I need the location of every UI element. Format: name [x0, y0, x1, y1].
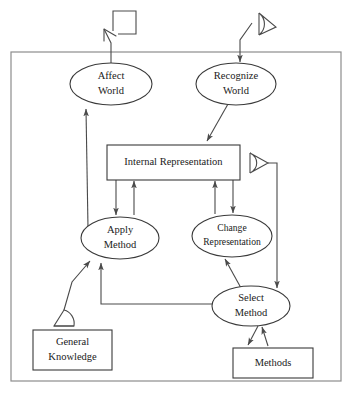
node-apply-method-line-2: Method — [104, 239, 137, 250]
node-methods-label: Methods — [255, 357, 292, 368]
node-general-knowledge-line-1: General — [56, 336, 89, 347]
node-general-knowledge[interactable]: General Knowledge — [33, 330, 112, 370]
node-methods[interactable]: Methods — [233, 348, 313, 378]
node-select-method[interactable]: Select Method — [212, 286, 290, 326]
node-select-method-line-1: Select — [238, 292, 264, 303]
node-change-representation-line-1: Change — [217, 222, 246, 233]
node-recognize-world-line-1: Recognize — [214, 70, 259, 81]
node-affect-world-line-2: World — [98, 85, 125, 96]
architecture-diagram: Affect World Recognize World Internal Re… — [0, 0, 353, 400]
edge-recognize-world-to-internal-representation — [207, 104, 228, 141]
node-apply-method[interactable]: Apply Method — [81, 217, 159, 259]
edge-select-method-to-change-representation — [225, 259, 241, 288]
node-change-representation[interactable]: Change Representation — [192, 215, 272, 257]
edge-select-method-to-methods — [248, 326, 258, 345]
edge-methods-to-select-method — [262, 327, 268, 346]
edge-world-sensor-to-recognize-world — [240, 23, 252, 62]
node-apply-method-line-1: Apply — [107, 224, 134, 235]
node-affect-world[interactable]: Affect World — [70, 63, 152, 105]
edge-representation-sensor-to-select-method — [268, 163, 277, 288]
edge-apply-method-to-affect-world — [86, 109, 88, 228]
node-internal-representation-label: Internal Representation — [124, 156, 223, 167]
edge-affect-world-to-effector — [104, 29, 116, 63]
diagram-canvas: Affect World Recognize World Internal Re… — [0, 0, 353, 400]
node-internal-representation[interactable]: Internal Representation — [107, 145, 240, 180]
representation-sensor-eye-icon — [250, 153, 268, 173]
node-select-method-line-2: Method — [235, 307, 268, 318]
node-recognize-world-line-2: World — [223, 85, 250, 96]
node-affect-world-line-1: Affect — [98, 70, 125, 81]
world-sensor-eye-icon — [259, 13, 276, 35]
edge-select-method-to-apply-method — [101, 263, 212, 304]
node-recognize-world[interactable]: Recognize World — [196, 63, 276, 105]
effector-bracket-icon — [113, 11, 136, 34]
node-change-representation-line-2: Representation — [203, 236, 261, 247]
knowledge-sensor-eye-icon — [54, 310, 74, 326]
edge-knowledge-sensor-to-apply-method — [64, 261, 90, 310]
node-general-knowledge-line-2: Knowledge — [48, 351, 97, 362]
